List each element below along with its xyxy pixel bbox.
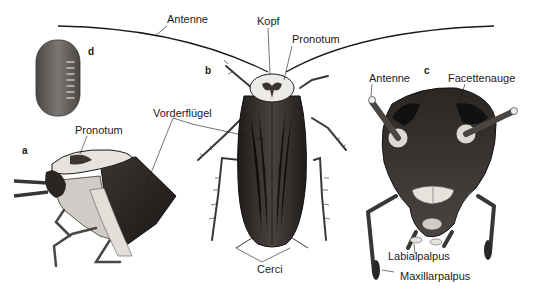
label-cerci: Cerci bbox=[257, 264, 283, 275]
label-vorderfluegel: Vorderflügel bbox=[153, 108, 212, 119]
panel-letter-b: b bbox=[205, 66, 211, 76]
label-antenne-frontal: Antenne bbox=[369, 73, 410, 84]
panel-letter-d: d bbox=[88, 47, 94, 57]
label-pronotum-lateral: Pronotum bbox=[75, 125, 123, 136]
panel-letter-a: a bbox=[22, 146, 28, 156]
panel-letter-c: c bbox=[424, 66, 430, 76]
illustration-canvas bbox=[0, 0, 534, 293]
lateral-view-drawing bbox=[14, 150, 176, 266]
ootheca-drawing bbox=[36, 40, 80, 116]
label-maxillarpalpus: Maxillarpalpus bbox=[400, 271, 470, 282]
label-pronotum-dorsal: Pronotum bbox=[292, 34, 340, 45]
label-antenne-dorsal: Antenne bbox=[167, 14, 208, 25]
label-facettenauge: Facettenauge bbox=[448, 73, 515, 84]
label-labialpalpus: Labialpalpus bbox=[388, 251, 450, 262]
label-kopf: Kopf bbox=[257, 16, 280, 27]
cockroach-anatomy-figure: Antenne Kopf Pronotum Vorderflügel Prono… bbox=[0, 0, 534, 293]
